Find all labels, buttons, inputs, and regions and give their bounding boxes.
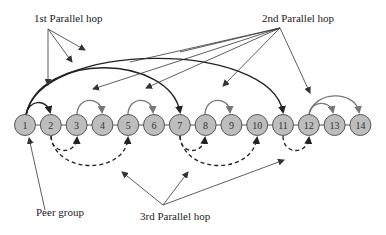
- node-label: 13: [330, 120, 340, 131]
- second-hop-arcs: [77, 96, 359, 115]
- node-2: 2: [40, 115, 61, 136]
- first-hop-label: 1st Parallel hop: [34, 12, 102, 24]
- node-9: 9: [221, 115, 242, 136]
- node-8: 8: [195, 115, 216, 136]
- node-12: 12: [298, 115, 319, 136]
- node-label: 8: [203, 120, 208, 131]
- node-label: 7: [177, 120, 182, 131]
- node-11: 11: [273, 115, 294, 136]
- arc-12-13: [309, 103, 333, 115]
- arc-8-9: [205, 100, 230, 115]
- hop-diagram: 1234567891011121314: [0, 0, 386, 235]
- node-4: 4: [92, 115, 113, 136]
- arc-12-14: [309, 96, 359, 115]
- arc-2-3: [51, 136, 77, 151]
- node-label: 10: [252, 120, 262, 131]
- peer-group-label: Peer group: [36, 206, 84, 218]
- node-7: 7: [169, 115, 190, 136]
- node-label: 4: [100, 120, 105, 131]
- node-6: 6: [144, 115, 165, 136]
- node-label: 11: [278, 120, 288, 131]
- node-14: 14: [350, 115, 371, 136]
- arc-3-4: [77, 100, 102, 115]
- arc-7-10: [180, 136, 257, 166]
- node-3: 3: [66, 115, 87, 136]
- node-5: 5: [118, 115, 139, 136]
- node-label: 14: [355, 120, 365, 131]
- node-label: 9: [229, 120, 234, 131]
- node-10: 10: [247, 115, 268, 136]
- node-1: 1: [15, 115, 36, 136]
- node-label: 3: [74, 120, 79, 131]
- arc-5-6: [128, 100, 153, 115]
- arc-2-5: [51, 136, 128, 166]
- node-label: 1: [23, 120, 28, 131]
- node-label: 5: [126, 120, 131, 131]
- first-hop-arcs: [26, 58, 283, 115]
- node-label: 6: [152, 120, 157, 131]
- third-hop-arcs: [51, 136, 309, 166]
- node-13: 13: [324, 115, 345, 136]
- arc-7-8: [180, 136, 205, 151]
- node-label: 12: [304, 120, 314, 131]
- arc-11-12: [283, 136, 309, 151]
- second-hop-label: 2nd Parallel hop: [262, 12, 334, 24]
- arc-1-7: [26, 68, 180, 115]
- node-label: 2: [48, 120, 53, 131]
- third-hop-label: 3rd Parallel hop: [140, 210, 210, 222]
- arc-1-11: [26, 58, 283, 115]
